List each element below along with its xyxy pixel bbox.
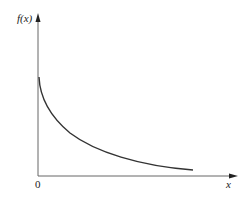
origin-label: 0 <box>35 179 41 190</box>
y-axis <box>36 13 41 176</box>
x-axis <box>38 174 238 179</box>
x-axis-label: x <box>226 179 231 190</box>
y-axis-arrow-icon <box>36 13 41 22</box>
chart-canvas <box>0 0 249 198</box>
curve-f-of-x <box>39 77 193 170</box>
y-axis-label: f(x) <box>17 13 32 24</box>
